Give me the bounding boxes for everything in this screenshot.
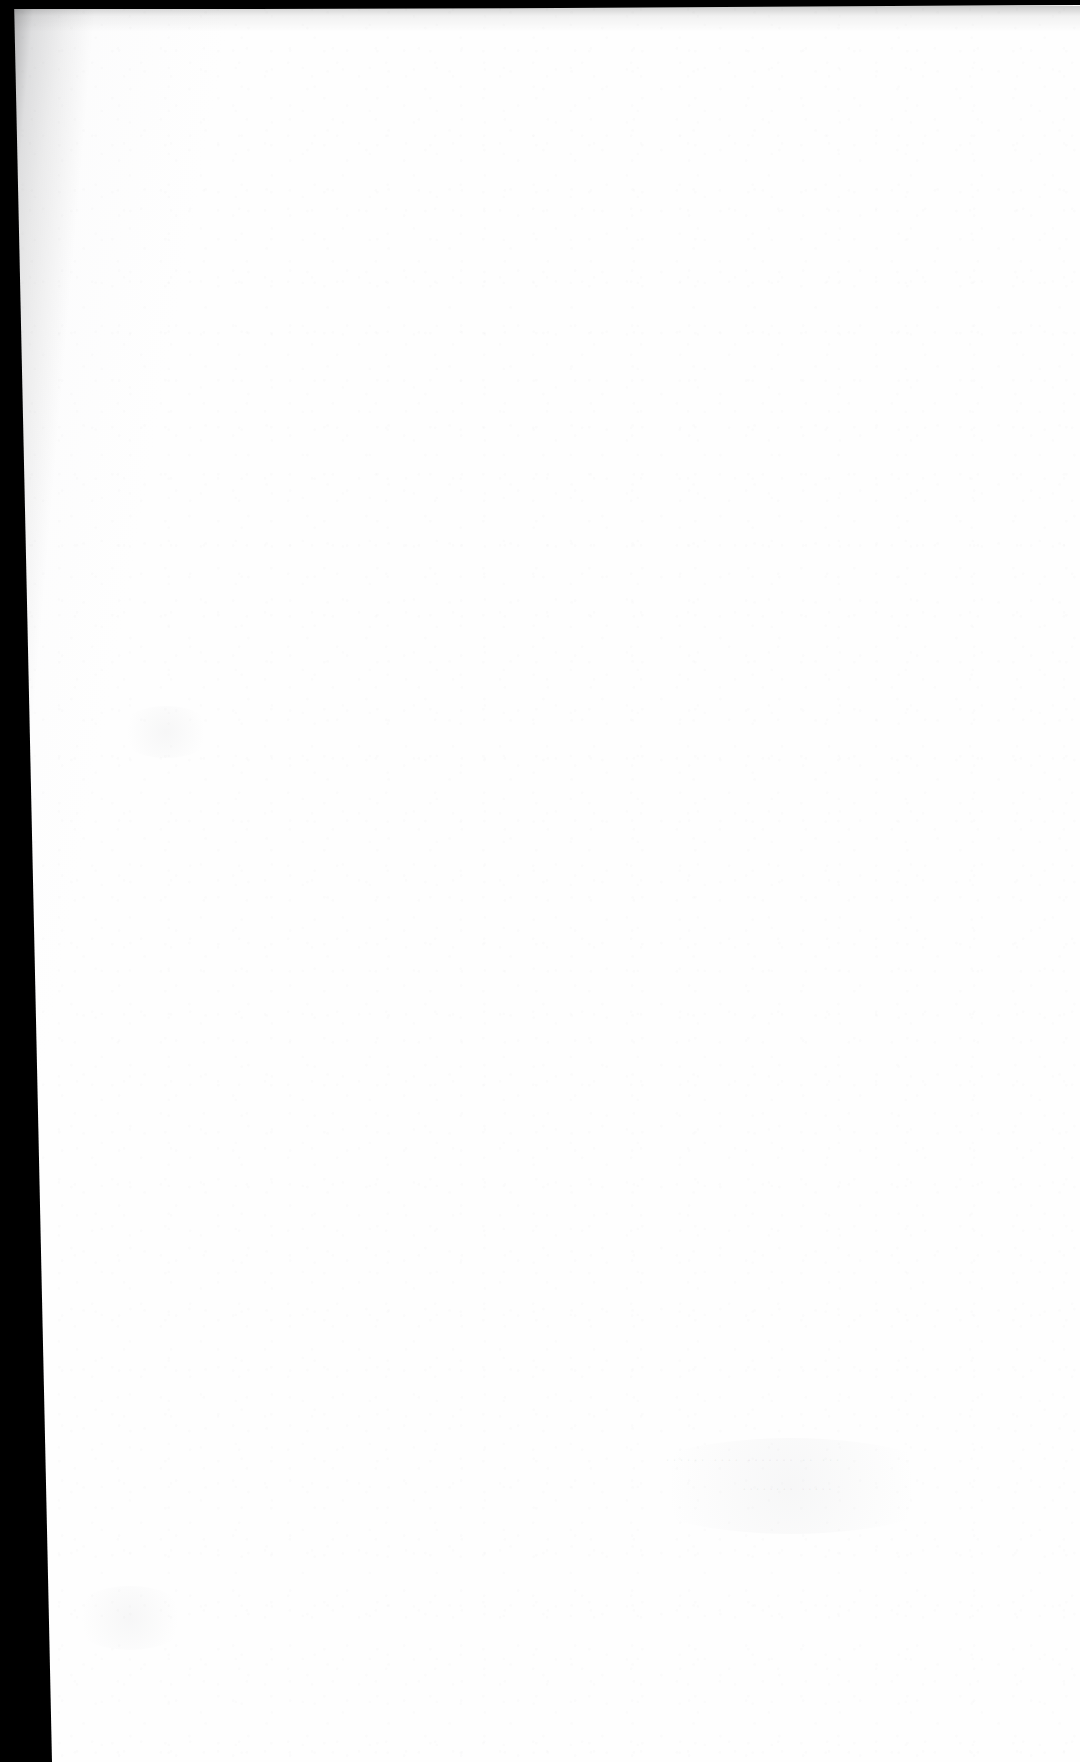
scanned-page: ······ ···· ······· ·· ··· ········ ····… [0,0,1080,1762]
paper-surface [0,0,1080,1762]
